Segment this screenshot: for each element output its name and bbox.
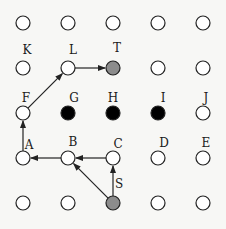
node-label-I: I (161, 91, 166, 105)
node-I-blocked (151, 106, 165, 120)
node-G-blocked (61, 106, 75, 120)
node-E-empty (196, 151, 210, 165)
node-label-F: F (22, 91, 30, 105)
node-S-endpoint (106, 196, 120, 210)
node-T-endpoint (106, 61, 120, 75)
node-label-J: J (202, 91, 209, 105)
node-r0c0-empty (16, 16, 30, 30)
node-H-blocked (106, 106, 120, 120)
node-r0c1-empty (61, 16, 75, 30)
grid-path-diagram: KLTFGHIJABCDES (0, 0, 226, 229)
node-label-B: B (69, 135, 78, 149)
node-B-empty (61, 151, 75, 165)
edges-layer (23, 68, 113, 198)
node-label-L: L (69, 43, 77, 57)
edge-arrow-F-to-L (28, 74, 62, 108)
node-label-S: S (115, 177, 123, 191)
node-F-empty (16, 106, 30, 120)
node-r1c3-empty (151, 61, 165, 75)
node-A-empty (16, 151, 30, 165)
node-r4c3-empty (151, 196, 165, 210)
node-r4c1-empty (61, 196, 75, 210)
node-label-H: H (108, 91, 118, 105)
edge-arrow-S-to-B (74, 164, 108, 198)
node-r0c4-empty (196, 16, 210, 30)
node-r0c3-empty (151, 16, 165, 30)
node-label-D: D (159, 136, 169, 150)
node-label-A: A (24, 138, 34, 152)
node-r0c2-empty (106, 16, 120, 30)
node-label-C: C (113, 137, 122, 151)
node-r4c4-empty (196, 196, 210, 210)
node-label-G: G (69, 91, 79, 105)
node-K-empty (16, 61, 30, 75)
node-r4c0-empty (16, 196, 30, 210)
node-L-empty (61, 61, 75, 75)
node-D-empty (151, 151, 165, 165)
node-r1c4-empty (196, 61, 210, 75)
node-label-K: K (23, 43, 33, 57)
node-J-empty (196, 106, 210, 120)
node-label-T: T (113, 41, 121, 55)
node-label-E: E (202, 136, 211, 150)
node-C-empty (106, 151, 120, 165)
